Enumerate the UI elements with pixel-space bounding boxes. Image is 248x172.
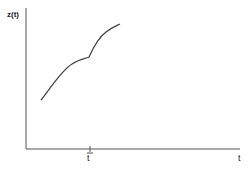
figure: z(t) t t [0,0,248,172]
y-axis-label: z(t) [7,10,19,19]
tick-label-tbar: t [87,153,90,163]
curve-z-of-t [41,24,120,100]
x-axis-label: t [238,153,241,163]
